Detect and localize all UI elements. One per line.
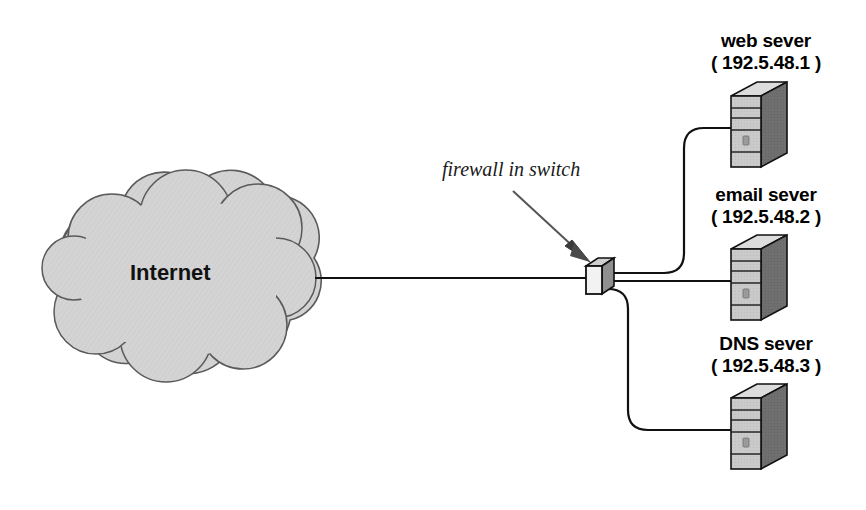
server-name-email: email sever — [690, 184, 842, 206]
server-label-web: web sever ( 192.5.48.1 ) — [690, 30, 842, 75]
server-name-web: web sever — [690, 30, 842, 52]
server-ip-dns: ( 192.5.48.3 ) — [690, 355, 842, 377]
server-ip-email: ( 192.5.48.2 ) — [690, 206, 842, 228]
server-label-email: email sever ( 192.5.48.2 ) — [690, 184, 842, 229]
server-name-dns: DNS sever — [690, 333, 842, 355]
firewall-annotation-label: firewall in switch — [442, 158, 580, 181]
server-tower-web[interactable] — [731, 82, 787, 167]
diagram-canvas — [0, 0, 866, 510]
server-ip-web: ( 192.5.48.1 ) — [690, 52, 842, 74]
server-label-dns: DNS sever ( 192.5.48.3 ) — [690, 333, 842, 378]
firewall-switch[interactable] — [586, 258, 614, 294]
server-tower-email[interactable] — [731, 235, 787, 320]
firewall-annotation-arrow — [513, 191, 590, 262]
network-diagram: Internet firewall in switch web sever ( … — [0, 0, 866, 510]
internet-cloud-label: Internet — [130, 260, 211, 286]
server-tower-dns[interactable] — [731, 384, 787, 469]
